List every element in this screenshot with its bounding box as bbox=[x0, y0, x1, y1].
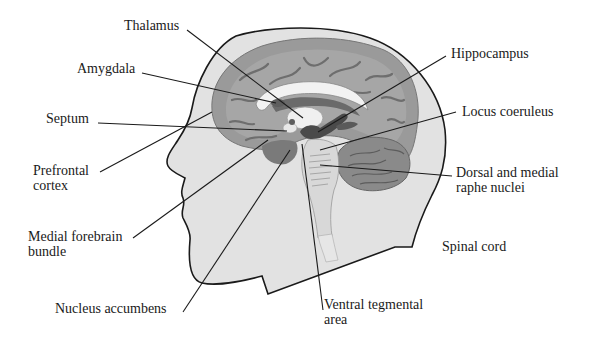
label-text: area bbox=[324, 312, 423, 327]
label-thalamus: Thalamus bbox=[124, 18, 179, 33]
label-text: Ventral tegmental bbox=[324, 297, 423, 312]
label-dorsal-medial-raphe: Dorsal and medial raphe nuclei bbox=[456, 165, 559, 195]
label-prefrontal-cortex: Prefrontal cortex bbox=[33, 163, 89, 193]
label-septum: Septum bbox=[46, 111, 89, 126]
label-text: raphe nuclei bbox=[456, 180, 559, 195]
septum bbox=[283, 123, 297, 133]
label-ventral-tegmental-area: Ventral tegmental area bbox=[324, 297, 423, 327]
label-medial-forebrain-bundle: Medial forebrain bundle bbox=[28, 229, 122, 259]
label-text: Prefrontal bbox=[33, 163, 89, 178]
label-text: bundle bbox=[28, 244, 122, 259]
label-text: Thalamus bbox=[124, 18, 179, 33]
label-text: Septum bbox=[46, 111, 89, 126]
label-nucleus-accumbens: Nucleus accumbens bbox=[55, 301, 167, 316]
label-text: Nucleus accumbens bbox=[55, 301, 167, 316]
label-text: cortex bbox=[33, 178, 89, 193]
label-spinal-cord: Spinal cord bbox=[442, 239, 506, 254]
label-amygdala: Amygdala bbox=[77, 61, 135, 76]
label-hippocampus: Hippocampus bbox=[451, 46, 529, 61]
label-text: Dorsal and medial bbox=[456, 165, 559, 180]
label-text: Locus coeruleus bbox=[462, 104, 553, 119]
label-text: Medial forebrain bbox=[28, 229, 122, 244]
label-locus-coeruleus: Locus coeruleus bbox=[462, 104, 553, 119]
label-text: Spinal cord bbox=[442, 239, 506, 254]
mammillary bbox=[289, 119, 295, 125]
label-text: Hippocampus bbox=[451, 46, 529, 61]
label-text: Amygdala bbox=[77, 61, 135, 76]
